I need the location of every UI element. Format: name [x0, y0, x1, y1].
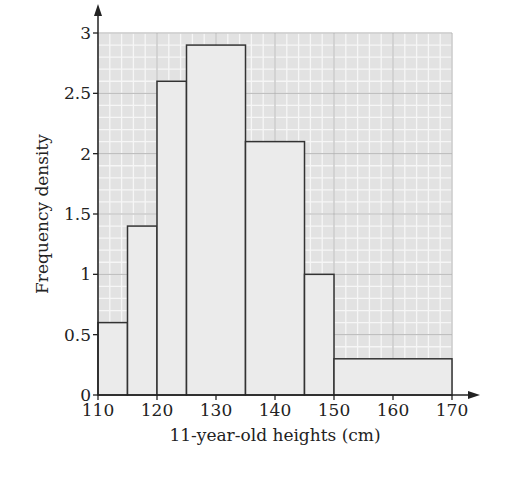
histogram-bar [157, 81, 187, 395]
x-tick-label: 120 [141, 400, 173, 420]
y-axis-arrow-icon [94, 4, 102, 16]
x-tick-label: 150 [318, 400, 350, 420]
x-tick-label: 170 [436, 400, 468, 420]
y-axis-title: Frequency density [32, 134, 52, 294]
y-tick-label: 1.5 [64, 204, 91, 224]
histogram-bar [305, 274, 335, 395]
histogram-bar [128, 226, 158, 395]
histogram-bar [334, 359, 452, 395]
x-tick-label: 160 [377, 400, 409, 420]
x-tick-label: 140 [259, 400, 291, 420]
y-tick-label: 2 [80, 144, 91, 164]
y-tick-label: 0.5 [64, 325, 91, 345]
histogram-bar [187, 45, 246, 395]
y-tick-label: 1 [80, 264, 91, 284]
histogram-bar [246, 142, 305, 395]
x-axis-arrow-icon [468, 391, 480, 399]
y-tick-label: 2.5 [64, 83, 91, 103]
x-axis-title: 11-year-old heights (cm) [169, 425, 380, 445]
histogram-chart: 11012013014015016017000.511.522.53 11-ye… [0, 0, 516, 482]
y-tick-label: 0 [80, 385, 91, 405]
histogram-bar [98, 323, 128, 395]
x-tick-label: 130 [200, 400, 232, 420]
y-tick-label: 3 [80, 23, 91, 43]
